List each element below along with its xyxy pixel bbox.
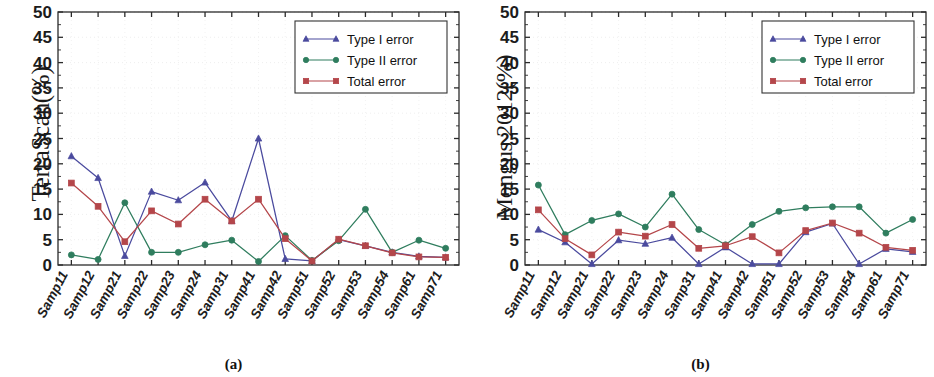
legend-label: Total error: [347, 74, 406, 89]
data-point: [229, 237, 235, 243]
data-point: [723, 243, 729, 249]
data-point: [803, 228, 809, 234]
data-point: [175, 249, 181, 255]
data-point: [443, 255, 449, 261]
data-point: [669, 191, 675, 197]
legend-marker: [303, 78, 308, 83]
data-point: [149, 249, 155, 255]
data-point: [256, 258, 262, 264]
legend-label: Type II error: [347, 53, 418, 68]
data-point: [229, 218, 235, 224]
data-point: [749, 234, 755, 240]
data-point: [562, 236, 568, 242]
legend: Type I errorType II errorTotal error: [295, 21, 447, 93]
data-point: [68, 252, 74, 258]
data-point: [535, 182, 541, 188]
data-point: [362, 206, 368, 212]
legend-label: Type I error: [814, 32, 881, 47]
data-point: [416, 254, 422, 260]
legend-label: Total error: [814, 74, 873, 89]
legend-label: Type I error: [347, 32, 414, 47]
data-point: [149, 208, 155, 214]
data-point: [749, 222, 755, 228]
y-axis-label-a: TerraScan(%): [26, 0, 56, 268]
data-point: [363, 243, 369, 249]
data-point: [883, 244, 889, 250]
data-point: [68, 180, 74, 186]
data-point: [856, 230, 862, 236]
data-point: [95, 203, 101, 209]
legend-marker: [333, 57, 338, 62]
legend: Type I errorType II errorTotal error: [762, 21, 914, 93]
legend-label: Type II error: [814, 53, 885, 68]
data-point: [122, 200, 128, 206]
data-point: [202, 242, 208, 248]
caption-b: (b): [467, 356, 934, 373]
data-point: [95, 256, 101, 262]
chart-a: 05101520253035404550Samp11Samp12Samp21Sa…: [0, 0, 467, 345]
legend-marker: [770, 78, 775, 83]
data-point: [830, 220, 836, 226]
data-point: [803, 205, 809, 211]
data-point: [389, 250, 395, 256]
data-point: [669, 222, 675, 228]
data-point: [416, 237, 422, 243]
legend-marker: [303, 57, 308, 62]
y-axis-label-b: Mongus 2012(%): [489, 0, 519, 274]
data-point: [776, 208, 782, 214]
data-point: [122, 239, 128, 245]
panel-a: TerraScan(%) 05101520253035404550Samp11S…: [0, 0, 467, 377]
data-point: [910, 247, 916, 253]
data-point: [443, 245, 449, 251]
caption-a: (a): [0, 356, 467, 373]
panel-b: Mongus 2012(%) 05101520253035404550Samp1…: [467, 0, 934, 377]
data-point: [589, 252, 595, 258]
data-point: [336, 236, 342, 242]
data-point: [202, 196, 208, 202]
data-point: [776, 250, 782, 256]
data-point: [589, 217, 595, 223]
data-point: [642, 224, 648, 230]
data-point: [282, 236, 288, 242]
data-point: [175, 221, 181, 227]
data-point: [616, 211, 622, 217]
figure-container: TerraScan(%) 05101520253035404550Samp11S…: [0, 0, 934, 377]
data-point: [535, 207, 541, 213]
legend-marker: [333, 78, 338, 83]
data-point: [256, 196, 262, 202]
chart-b: 05101520253035404550Samp11Samp12Samp21Sa…: [467, 0, 934, 345]
legend-marker: [770, 57, 775, 62]
data-point: [910, 216, 916, 222]
data-point: [829, 204, 835, 210]
data-point: [616, 229, 622, 235]
data-point: [696, 245, 702, 251]
legend-marker: [800, 78, 805, 83]
data-point: [696, 227, 702, 233]
data-point: [856, 204, 862, 210]
data-point: [883, 230, 889, 236]
data-point: [642, 233, 648, 239]
legend-marker: [800, 57, 805, 62]
data-point: [309, 258, 315, 264]
